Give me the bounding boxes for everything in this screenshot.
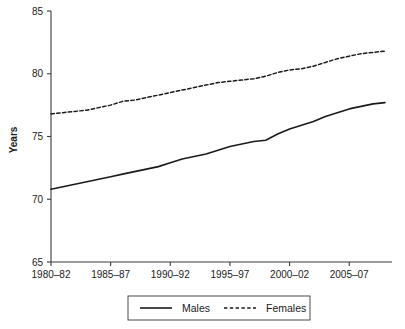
y-axis-ticks: 6570758085 <box>32 6 51 268</box>
y-tick-label: 80 <box>32 68 44 79</box>
axis-lines <box>51 11 392 262</box>
y-tick-label: 65 <box>32 257 44 268</box>
x-axis-ticks: 1980–821985–871990–921995–972000–022005–… <box>32 262 370 280</box>
series-group <box>51 51 385 189</box>
x-tick-label: 1980–82 <box>32 269 71 280</box>
x-tick-label: 1995–97 <box>210 269 249 280</box>
x-tick-label: 2000–02 <box>270 269 309 280</box>
y-tick-label: 75 <box>32 131 44 142</box>
legend-label-females: Females <box>266 302 306 314</box>
y-tick-label: 85 <box>32 6 44 17</box>
legend-label-males: Males <box>182 302 210 314</box>
chart-legend: Males Females <box>128 296 310 320</box>
x-tick-label: 2005–07 <box>330 269 369 280</box>
x-tick-label: 1990–92 <box>151 269 190 280</box>
chart-canvas: 6570758085 1980–821985–871990–921995–972… <box>0 0 405 329</box>
y-axis-title: Years <box>8 126 19 153</box>
series-line-males <box>51 103 385 190</box>
life-expectancy-line-chart: 6570758085 1980–821985–871990–921995–972… <box>0 0 405 329</box>
x-tick-label: 1985–87 <box>91 269 130 280</box>
series-line-females <box>51 51 385 114</box>
y-tick-label: 70 <box>32 194 44 205</box>
